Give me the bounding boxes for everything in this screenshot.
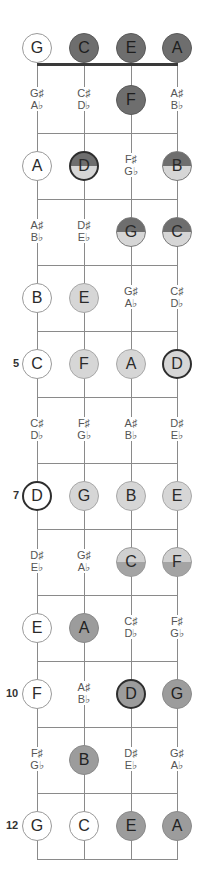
string-line-2: [84, 64, 85, 859]
sharp-name: D♯: [69, 219, 99, 231]
accidental-label-string-e-fret-9: C♯D♭: [116, 615, 146, 639]
sharp-name: G♯: [162, 747, 192, 759]
accidental-label-string-c-fret-10: A♯B♭: [69, 681, 99, 705]
note-d-string-c-fret-2: D: [69, 151, 99, 181]
note-f-string-e-fret-1: F: [116, 85, 146, 115]
accidental-label-string-e-fret-2: F♯G♭: [116, 153, 146, 177]
accidental-label-string-g-fret-1: G♯A♭: [22, 87, 52, 111]
note-f-string-c-fret-5: F: [69, 349, 99, 379]
flat-name: A♭: [162, 759, 192, 771]
note-a-string-a-fret-12: A: [162, 811, 192, 841]
note-b-string-c-fret-11: B: [69, 745, 99, 775]
sharp-name: A♯: [116, 417, 146, 429]
accidental-label-string-g-fret-11: F♯G♭: [22, 747, 52, 771]
flat-name: G♭: [69, 429, 99, 441]
flat-name: D♭: [116, 627, 146, 639]
fretboard-diagram: 571012GCEAG♯A♭C♯D♭FA♯B♭ADF♯G♭BA♯B♭D♯E♭GC…: [0, 0, 205, 881]
string-line-3: [131, 64, 132, 859]
note-d-string-a-fret-5: D: [162, 349, 192, 379]
sharp-name: G♯: [116, 285, 146, 297]
flat-name: D♭: [162, 297, 192, 309]
fret-line-1: [37, 133, 178, 134]
sharp-name: A♯: [162, 87, 192, 99]
note-a-string-g-fret-2: A: [22, 151, 52, 181]
note-d-string-e-fret-10: D: [116, 679, 146, 709]
string-line-1: [37, 64, 38, 859]
fret-line-3: [37, 265, 178, 266]
accidental-label-string-a-fret-11: G♯A♭: [162, 747, 192, 771]
note-c-string-c-fret-0: C: [69, 33, 99, 63]
accidental-label-string-g-fret-3: A♯B♭: [22, 219, 52, 243]
note-f-string-g-fret-10: F: [22, 679, 52, 709]
flat-name: A♭: [69, 561, 99, 573]
note-g-string-g-fret-12: G: [22, 811, 52, 841]
note-b-string-g-fret-4: B: [22, 283, 52, 313]
fret-line-2: [37, 199, 178, 200]
note-a-string-e-fret-5: A: [116, 349, 146, 379]
fret-line-7: [37, 529, 178, 530]
accidental-label-string-c-fret-3: D♯E♭: [69, 219, 99, 243]
sharp-name: C♯: [162, 285, 192, 297]
flat-name: G♭: [22, 759, 52, 771]
sharp-name: A♯: [22, 219, 52, 231]
note-g-string-g-fret-0: G: [22, 33, 52, 63]
accidental-label-string-c-fret-1: C♯D♭: [69, 87, 99, 111]
note-e-string-a-fret-7: E: [162, 481, 192, 511]
accidental-label-string-g-fret-6: C♯D♭: [22, 417, 52, 441]
accidental-label-string-e-fret-11: D♯E♭: [116, 747, 146, 771]
sharp-name: F♯: [69, 417, 99, 429]
accidental-label-string-e-fret-4: G♯A♭: [116, 285, 146, 309]
fret-number-10: 10: [6, 687, 18, 699]
note-b-string-e-fret-7: B: [116, 481, 146, 511]
flat-name: B♭: [69, 693, 99, 705]
sharp-name: G♯: [69, 549, 99, 561]
flat-name: E♭: [22, 561, 52, 573]
flat-name: D♭: [69, 99, 99, 111]
sharp-name: D♯: [22, 549, 52, 561]
sharp-name: F♯: [162, 615, 192, 627]
flat-name: B♭: [162, 99, 192, 111]
note-g-string-e-fret-3: G: [116, 217, 146, 247]
note-e-string-e-fret-0: E: [116, 33, 146, 63]
fret-number-12: 12: [6, 819, 18, 831]
accidental-label-string-a-fret-9: F♯G♭: [162, 615, 192, 639]
fret-line-4: [37, 331, 178, 332]
note-c-string-g-fret-5: C: [22, 349, 52, 379]
sharp-name: A♯: [69, 681, 99, 693]
flat-name: A♭: [116, 297, 146, 309]
flat-name: E♭: [116, 759, 146, 771]
note-a-string-a-fret-0: A: [162, 33, 192, 63]
note-f-string-a-fret-8: F: [162, 547, 192, 577]
fret-line-8: [37, 595, 178, 596]
string-line-4: [177, 64, 178, 859]
fret-line-9: [37, 661, 178, 662]
sharp-name: C♯: [22, 417, 52, 429]
note-e-string-c-fret-4: E: [69, 283, 99, 313]
flat-name: B♭: [116, 429, 146, 441]
note-c-string-a-fret-3: C: [162, 217, 192, 247]
note-e-string-g-fret-9: E: [22, 613, 52, 643]
note-c-string-c-fret-12: C: [69, 811, 99, 841]
fret-line-11: [37, 793, 178, 794]
note-d-string-g-fret-7: D: [22, 481, 52, 511]
accidental-label-string-a-fret-4: C♯D♭: [162, 285, 192, 309]
sharp-name: D♯: [116, 747, 146, 759]
note-a-string-c-fret-9: A: [69, 613, 99, 643]
note-e-string-e-fret-12: E: [116, 811, 146, 841]
sharp-name: D♯: [162, 417, 192, 429]
flat-name: E♭: [162, 429, 192, 441]
accidental-label-string-a-fret-1: A♯B♭: [162, 87, 192, 111]
flat-name: B♭: [22, 231, 52, 243]
flat-name: G♭: [162, 627, 192, 639]
fret-line-12: [37, 859, 178, 860]
sharp-name: C♯: [116, 615, 146, 627]
fret-number-5: 5: [13, 357, 19, 369]
fret-line-5: [37, 397, 178, 398]
note-c-string-e-fret-8: C: [116, 547, 146, 577]
accidental-label-string-c-fret-8: G♯A♭: [69, 549, 99, 573]
note-g-string-a-fret-10: G: [162, 679, 192, 709]
sharp-name: C♯: [69, 87, 99, 99]
nut: [37, 63, 178, 66]
accidental-label-string-g-fret-8: D♯E♭: [22, 549, 52, 573]
fret-line-6: [37, 463, 178, 464]
